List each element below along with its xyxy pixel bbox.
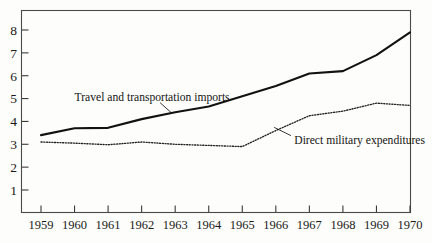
x-tick-label-1961: 1961 xyxy=(96,218,121,232)
y-axis-ticks xyxy=(22,30,29,190)
x-tick-label-1967: 1967 xyxy=(297,218,322,232)
x-tick-label-1966: 1966 xyxy=(263,218,288,232)
y-tick-label-1: 1 xyxy=(10,183,17,198)
x-axis-ticks xyxy=(41,206,410,213)
y-tick-label-2: 2 xyxy=(10,160,17,175)
military-expenditures-label: Direct military expenditures xyxy=(294,134,425,147)
military-expenditures-label-leader-line xyxy=(274,127,291,135)
x-tick-label-1965: 1965 xyxy=(230,218,255,232)
x-tick-label-1960: 1960 xyxy=(62,218,87,232)
x-axis-tick-labels: 1959196019611962196319641965196619671968… xyxy=(29,218,423,232)
y-tick-label-3: 3 xyxy=(10,137,17,152)
plot-frame xyxy=(22,11,411,213)
x-tick-label-1969: 1969 xyxy=(364,218,389,232)
travel-imports-label: Travel and transportation imports xyxy=(75,91,231,104)
x-tick-label-1959: 1959 xyxy=(29,218,54,232)
x-tick-label-1968: 1968 xyxy=(330,218,355,232)
y-tick-label-5: 5 xyxy=(10,91,17,106)
x-tick-label-1962: 1962 xyxy=(129,218,154,232)
y-tick-label-8: 8 xyxy=(10,23,17,38)
x-tick-label-1963: 1963 xyxy=(163,218,188,232)
y-axis-tick-labels: 12345678 xyxy=(10,23,17,198)
x-tick-label-1970: 1970 xyxy=(398,218,423,232)
x-tick-label-1964: 1964 xyxy=(196,218,222,232)
y-tick-label-6: 6 xyxy=(10,69,17,84)
y-tick-label-4: 4 xyxy=(10,114,17,129)
series-annotations: Travel and transportation importsDirect … xyxy=(75,91,426,147)
line-chart: 12345678 1959196019611962196319641965196… xyxy=(0,0,432,243)
series-line-travel-and-transportation-imports xyxy=(41,32,410,135)
y-tick-label-7: 7 xyxy=(10,46,17,61)
chart-figure: 12345678 1959196019611962196319641965196… xyxy=(0,0,432,243)
